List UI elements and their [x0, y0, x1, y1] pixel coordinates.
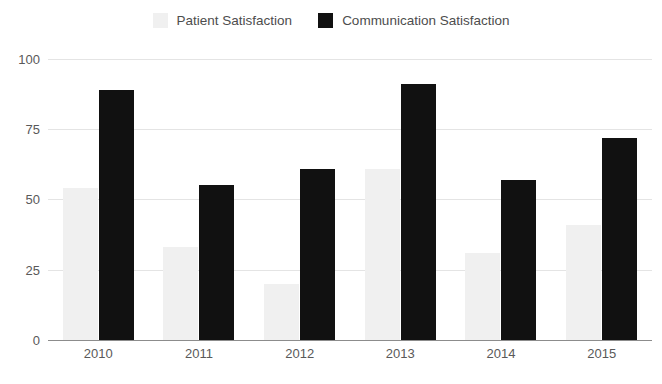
- legend-swatch-icon: [153, 13, 168, 28]
- bar-2015-series-1[interactable]: [566, 225, 601, 340]
- x-tick-label: 2013: [386, 347, 415, 360]
- x-tick-label: 2015: [587, 347, 616, 360]
- chart-legend: Patient Satisfaction Communication Satis…: [0, 13, 662, 28]
- bar-2010-series-2[interactable]: [99, 90, 134, 340]
- x-axis: 201020112012201320142015: [48, 347, 652, 367]
- bar-2011-series-2[interactable]: [199, 185, 234, 340]
- y-tick-label: 100: [0, 53, 40, 66]
- bar-2014-series-1[interactable]: [465, 253, 500, 340]
- x-tick-label: 2014: [487, 347, 516, 360]
- x-tick-label: 2011: [185, 347, 213, 360]
- legend-item-patient-satisfaction[interactable]: Patient Satisfaction: [153, 13, 293, 28]
- x-tick-label: 2010: [84, 347, 113, 360]
- bar-group-2012: [249, 59, 350, 340]
- legend-label: Communication Satisfaction: [342, 14, 509, 28]
- x-tick-label: 2012: [285, 347, 314, 360]
- bar-group-2013: [350, 59, 451, 340]
- legend-swatch-icon: [318, 13, 333, 28]
- bar-2015-series-2[interactable]: [602, 138, 637, 340]
- y-tick-label: 75: [0, 123, 40, 136]
- bar-group-2015: [551, 59, 652, 340]
- bar-2013-series-2[interactable]: [401, 84, 436, 340]
- bar-2012-series-1[interactable]: [264, 284, 299, 340]
- legend-item-communication-satisfaction[interactable]: Communication Satisfaction: [318, 13, 509, 28]
- bar-group-2014: [451, 59, 552, 340]
- bar-2013-series-1[interactable]: [365, 169, 400, 340]
- legend-label: Patient Satisfaction: [177, 14, 293, 28]
- bar-series-layer: [48, 59, 652, 340]
- bar-2011-series-1[interactable]: [163, 247, 198, 340]
- bar-2010-series-1[interactable]: [63, 188, 98, 340]
- x-axis-line: [48, 340, 652, 341]
- bar-group-2011: [149, 59, 250, 340]
- y-tick-label: 50: [0, 193, 40, 206]
- y-tick-label: 0: [0, 334, 40, 347]
- y-tick-label: 25: [0, 264, 40, 277]
- bar-group-2010: [48, 59, 149, 340]
- bar-2014-series-2[interactable]: [501, 180, 536, 340]
- bar-2012-series-2[interactable]: [300, 169, 335, 340]
- bar-chart: Patient Satisfaction Communication Satis…: [0, 0, 662, 384]
